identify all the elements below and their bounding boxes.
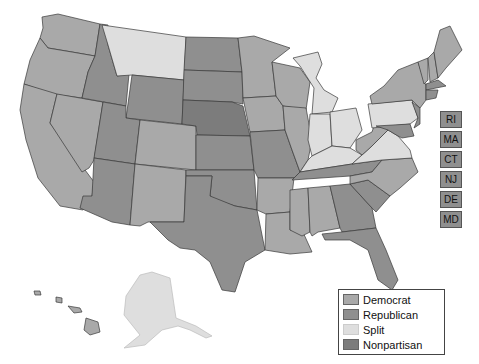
state-sd[interactable] (183, 70, 243, 104)
republican-swatch (343, 309, 359, 320)
state-hi-oahu[interactable] (56, 297, 62, 303)
state-ma[interactable] (426, 80, 446, 90)
state-ar[interactable] (257, 178, 294, 214)
state-ny[interactable] (370, 62, 426, 108)
legend-label: Democrat (363, 294, 411, 306)
democrat-swatch (343, 294, 359, 305)
state-ia[interactable] (243, 96, 285, 132)
state-wy[interactable] (126, 75, 184, 124)
state-fl[interactable] (322, 228, 398, 290)
state-nd[interactable] (184, 37, 242, 72)
small-state-md[interactable]: MD (440, 211, 462, 228)
state-nm[interactable] (130, 164, 186, 226)
legend-item-nonpartisan: Nonpartisan (343, 337, 440, 352)
legend-item-democrat: Democrat (343, 292, 440, 307)
state-me[interactable] (434, 26, 462, 78)
state-pa[interactable] (368, 100, 418, 128)
nonpartisan-swatch (343, 339, 359, 350)
small-state-de[interactable]: DE (440, 191, 462, 208)
small-states-key: RI MA CT NJ DE MD (440, 111, 462, 231)
small-state-ct[interactable]: CT (440, 151, 462, 168)
legend-label: Republican (363, 309, 418, 321)
state-hi-maui[interactable] (68, 306, 82, 313)
state-ms[interactable] (290, 188, 310, 236)
state-ct[interactable] (426, 90, 438, 100)
state-ak[interactable] (124, 272, 212, 348)
small-state-nj[interactable]: NJ (440, 171, 462, 188)
legend-label: Split (363, 324, 384, 336)
small-state-ma[interactable]: MA (440, 131, 462, 148)
map-legend: Democrat Republican Split Nonpartisan (338, 289, 445, 355)
state-hi-kauai[interactable] (34, 291, 41, 295)
split-swatch (343, 324, 359, 335)
legend-label: Nonpartisan (363, 339, 422, 351)
small-state-ri[interactable]: RI (440, 111, 462, 128)
state-ks[interactable] (196, 135, 254, 170)
legend-item-republican: Republican (343, 307, 440, 322)
legend-item-split: Split (343, 322, 440, 337)
state-hi-big[interactable] (84, 318, 100, 335)
state-co[interactable] (135, 120, 196, 170)
